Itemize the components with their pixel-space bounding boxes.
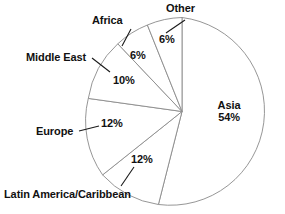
value-middle-east: 10% (113, 74, 135, 86)
label-other: Other (166, 2, 195, 14)
label-latin-america-caribbean: Latin America/Caribbean (4, 188, 131, 200)
label-middle-east: Middle East (26, 51, 86, 63)
value-africa: 6% (130, 49, 146, 61)
label-asia: Asia (212, 99, 246, 111)
label-europe: Europe (36, 125, 73, 137)
value-europe: 12% (101, 117, 123, 129)
pie-chart: Other 6% Africa 6% Middle East 10% Europ… (0, 0, 285, 214)
label-africa: Africa (92, 14, 123, 26)
value-latin-america-caribbean: 12% (131, 153, 153, 165)
value-asia: 54% (212, 111, 246, 123)
value-other: 6% (159, 33, 175, 45)
